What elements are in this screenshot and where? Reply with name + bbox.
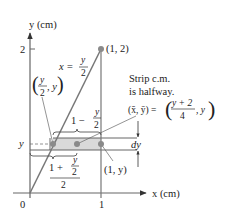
length-den: 2 <box>94 120 99 130</box>
mid-outer-den: 2 <box>61 180 66 190</box>
strip-y-label: y <box>18 138 24 149</box>
curve-equation-lhs: x = <box>58 61 73 72</box>
left-point-suffix: , y <box>47 81 57 92</box>
point-label-1-y: (1, y) <box>104 164 127 176</box>
note-line-1: Strip c.m. <box>129 73 170 84</box>
left-point-num: y <box>39 75 45 85</box>
centroid-paren-close: ) <box>208 96 215 121</box>
centroid-den: 4 <box>180 111 185 121</box>
left-point-paren-close: ) <box>57 73 64 96</box>
x-axis-label: x (cm) <box>152 188 180 200</box>
leader-right-point <box>101 144 113 161</box>
left-point-den: 2 <box>40 88 45 98</box>
centroid-suffix: , y <box>196 105 206 115</box>
leader-centroid <box>77 116 136 144</box>
curve-equation-den: 2 <box>81 68 86 78</box>
y-axis-label: y (cm) <box>29 19 57 31</box>
point-1-y <box>98 141 104 147</box>
y-tick-label-2: 2 <box>20 44 25 55</box>
x-tick-label-1: 1 <box>99 199 104 210</box>
mid-num: y <box>72 155 78 165</box>
brace-mid-distance <box>30 153 77 159</box>
point-centroid <box>74 141 80 147</box>
dy-label: dy <box>131 139 141 150</box>
point-label-1-2: (1, 2) <box>106 43 129 55</box>
centroid-num: y + 2 <box>171 98 192 108</box>
mid-den: 2 <box>72 167 77 177</box>
left-point-paren-open: ( <box>32 73 39 96</box>
point-left-y-over-2 <box>50 141 56 147</box>
leader-left-point <box>42 97 53 144</box>
point-1-2 <box>98 46 104 52</box>
centroid-lhs: (x̄, ȳ) = <box>128 105 156 116</box>
length-prefix: 1 − <box>71 115 85 126</box>
centroid-diagram: y (cm) x (cm) 0 1 2 y x = y 2 (1, 2) ( y… <box>0 0 225 218</box>
length-num: y <box>94 107 100 117</box>
curve-equation-num: y <box>80 55 86 65</box>
mid-prefix: 1 + <box>49 162 63 173</box>
origin-label: 0 <box>20 199 25 210</box>
